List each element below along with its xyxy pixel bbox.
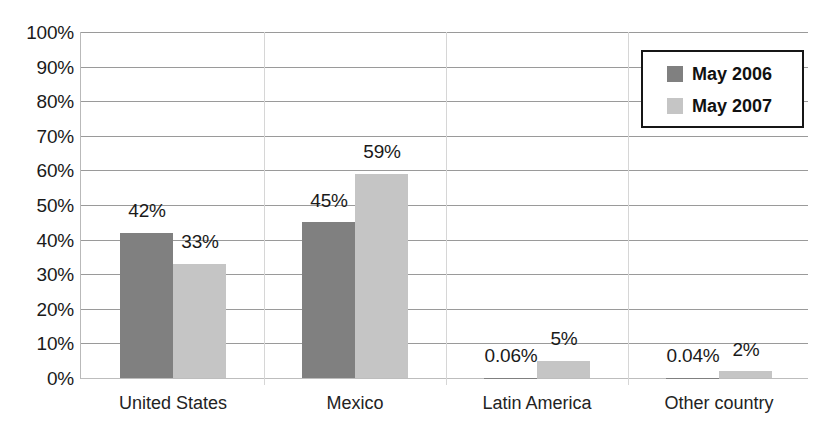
- bar-latin-america-may-2007: [537, 361, 590, 378]
- legend-label-may-2007: May 2007: [692, 97, 772, 115]
- bar-mexico-may-2007: [355, 174, 408, 378]
- data-label-latin-america-may-2007: 5%: [550, 329, 577, 348]
- legend: May 2006 May 2007: [641, 50, 804, 128]
- data-label-united-states-may-2006: 42%: [128, 201, 165, 220]
- data-label-united-states-may-2007: 33%: [181, 232, 218, 251]
- data-label-mexico-may-2006: 45%: [310, 191, 347, 210]
- legend-item-may-2006: May 2006: [667, 65, 772, 83]
- legend-swatch-icon-may-2007: [667, 98, 683, 114]
- data-label-other-country-may-2006: 0.04%: [667, 346, 720, 365]
- bar-united-states-may-2007: [173, 264, 226, 378]
- y-tick-label-20: 20%: [2, 299, 74, 318]
- data-label-mexico-may-2007: 59%: [363, 142, 400, 161]
- gridline-0: [81, 378, 808, 379]
- y-tick-label-90: 90%: [2, 57, 74, 76]
- y-tick-label-80: 80%: [2, 92, 74, 111]
- y-tick-label-0: 0%: [2, 369, 74, 388]
- y-tick-label-50: 50%: [2, 196, 74, 215]
- y-tick-label-30: 30%: [2, 265, 74, 284]
- y-axis-labels: 100% 90% 80% 70% 60% 50% 40% 30% 20% 10%…: [0, 0, 74, 434]
- y-tick-label-60: 60%: [2, 161, 74, 180]
- legend-label-may-2006: May 2006: [692, 65, 772, 83]
- data-label-other-country-may-2007: 2%: [732, 340, 759, 359]
- data-label-latin-america-may-2006: 0.06%: [485, 346, 538, 365]
- x-axis-label-mexico: Mexico: [326, 394, 383, 412]
- x-axis-label-latin-america: Latin America: [482, 394, 591, 412]
- x-axis-label-other-country: Other country: [664, 394, 773, 412]
- legend-item-may-2007: May 2007: [667, 97, 772, 115]
- y-tick-label-40: 40%: [2, 230, 74, 249]
- legend-swatch-icon-may-2006: [667, 66, 683, 82]
- bar-mexico-may-2006: [302, 222, 355, 378]
- y-tick-label-10: 10%: [2, 334, 74, 353]
- bar-chart: 100% 90% 80% 70% 60% 50% 40% 30% 20% 10%…: [0, 0, 817, 434]
- y-tick-label-100: 100%: [2, 23, 74, 42]
- y-tick-label-70: 70%: [2, 126, 74, 145]
- x-axis-label-united-states: United States: [119, 394, 227, 412]
- bar-united-states-may-2006: [120, 233, 173, 378]
- bar-other-country-may-2007: [719, 371, 772, 378]
